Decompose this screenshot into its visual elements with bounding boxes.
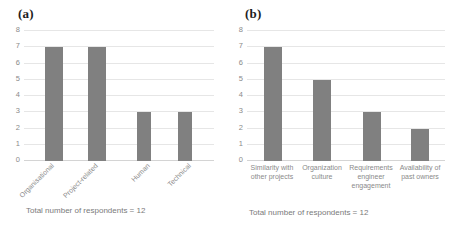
bar-organisational: [45, 47, 63, 161]
y-tick-label: 3: [239, 108, 243, 116]
bar-project-related: [88, 47, 106, 161]
x-label-availability-of-past-owners: Availability of past owners: [395, 163, 445, 181]
bar-organization-culture: [313, 80, 331, 161]
y-tick-label: 5: [239, 75, 243, 83]
y-tick-label: 1: [16, 140, 20, 148]
caption-a: Total number of respondents = 12: [26, 207, 145, 215]
y-tick-label: 8: [239, 26, 243, 34]
caption-b: Total number of respondents = 12: [249, 209, 368, 217]
y-tick-label: 6: [16, 59, 20, 67]
y-tick-label: 1: [239, 140, 243, 148]
x-label-human: Human: [130, 162, 151, 183]
bar-technical: [178, 112, 192, 161]
y-tick-label: 0: [16, 156, 20, 164]
chart-panel-a: (a) 8 7 6 5 4 3 2 1 0 Organisational: [0, 0, 227, 229]
bar-requirements-engineer-engagement: [363, 112, 381, 161]
bar-series-a: [24, 31, 214, 161]
panel-label-b: (b): [245, 6, 262, 22]
y-tick-label: 2: [16, 124, 20, 132]
y-tick-label: 6: [239, 59, 243, 67]
y-tick-label: 8: [16, 26, 20, 34]
x-label-similarity-with-other-projects: Similarity with other projects: [247, 163, 297, 181]
x-label-technical: Technical: [166, 162, 192, 188]
y-tick-label: 4: [239, 91, 243, 99]
x-label-organization-culture: Organization culture: [297, 163, 347, 181]
bar-series-b: [247, 31, 445, 161]
x-label-project-related: Project-related: [62, 162, 99, 199]
plot-area-b: 8 7 6 5 4 3 2 1 0: [247, 31, 445, 161]
bar-human: [137, 112, 151, 161]
x-axis-labels-a: Organisational Project-related Human Tec…: [24, 162, 214, 208]
figure-container: (a) 8 7 6 5 4 3 2 1 0 Organisational: [0, 0, 454, 229]
x-label-requirements-engineer-engagement: Requirements engineer engagement: [346, 163, 396, 190]
panel-label-a: (a): [18, 6, 34, 22]
chart-panel-b: (b) 8 7 6 5 4 3 2 1 0 Similarity with ot…: [227, 0, 454, 229]
y-tick-label: 0: [239, 156, 243, 164]
x-label-organisational: Organisational: [18, 162, 55, 199]
bar-availability-of-past-owners: [411, 129, 429, 162]
y-tick-label: 2: [239, 124, 243, 132]
bar-similarity-with-other-projects: [264, 47, 282, 161]
plot-area-a: 8 7 6 5 4 3 2 1 0: [24, 31, 214, 161]
y-tick-label: 7: [16, 43, 20, 51]
y-tick-label: 4: [16, 91, 20, 99]
y-tick-label: 3: [16, 108, 20, 116]
x-axis-labels-b: Similarity with other projects Organizat…: [247, 163, 445, 209]
y-tick-label: 5: [16, 75, 20, 83]
y-tick-label: 7: [239, 43, 243, 51]
